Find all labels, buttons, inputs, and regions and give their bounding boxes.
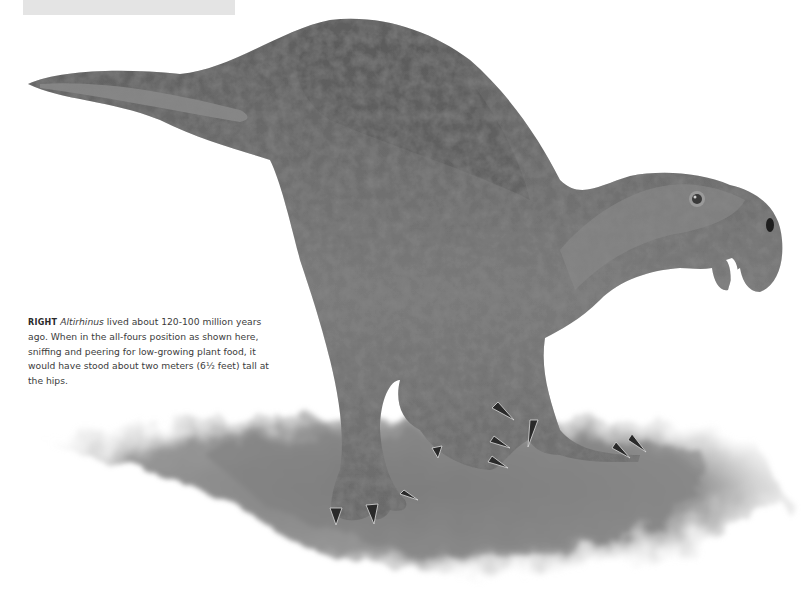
dinosaur-illustration xyxy=(0,0,809,598)
caption-genus: Altirhinus xyxy=(60,316,104,327)
caption-lead: RIGHT xyxy=(28,318,57,327)
nostril xyxy=(766,218,774,232)
eye xyxy=(689,191,705,207)
figure-caption: RIGHT Altirhinus lived about 120-100 mil… xyxy=(28,315,273,388)
